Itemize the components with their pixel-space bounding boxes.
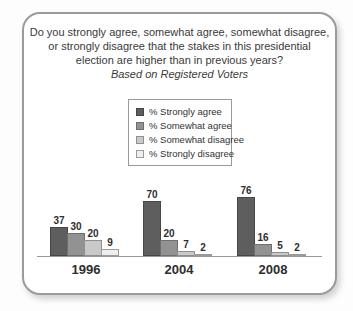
legend-label: % Somewhat disagree [149, 134, 244, 145]
bar-cell: 20 [84, 228, 102, 256]
legend-item-strongly-disagree: % Strongly disagree [136, 147, 231, 160]
bar-cell: 76 [237, 185, 255, 256]
legend-swatch-somewhat-agree [136, 122, 144, 130]
chart-title: Do you strongly agree, somewhat agree, s… [24, 25, 335, 81]
bar-value-label: 2 [200, 242, 206, 253]
bar-value-label: 7 [183, 239, 189, 250]
bar-value-label: 30 [70, 221, 81, 232]
bar-cell: 5 [271, 240, 289, 256]
bar-value-label: 20 [163, 228, 174, 239]
legend-item-somewhat-disagree: % Somewhat disagree [136, 133, 231, 146]
bar-cell: 37 [50, 215, 68, 256]
bar-value-label: 76 [240, 185, 251, 196]
bar-cell: 70 [143, 189, 161, 256]
legend-swatch-somewhat-disagree [136, 136, 144, 144]
bar-group-1996: 3730209 [50, 215, 119, 256]
bar [177, 251, 195, 256]
bar [271, 252, 289, 256]
x-axis-label: 2004 [143, 262, 215, 277]
bar-value-label: 70 [146, 189, 157, 200]
x-axis-label: 1996 [50, 262, 122, 277]
bar [254, 244, 272, 256]
bar [237, 197, 255, 256]
bar [101, 249, 119, 256]
bar-chart-plot: 3730209702072761652 [37, 179, 322, 257]
legend-swatch-strongly-disagree [136, 150, 144, 158]
bar-value-label: 20 [87, 228, 98, 239]
bar-value-label: 5 [277, 240, 283, 251]
bar-cell: 30 [67, 221, 85, 256]
bar-value-label: 2 [294, 242, 300, 253]
chart-legend: % Strongly agree % Somewhat agree % Some… [128, 99, 232, 166]
bar-cell: 16 [254, 232, 272, 256]
chart-title-line-3: election are higher than in previous yea… [24, 53, 335, 67]
legend-item-strongly-agree: % Strongly agree [136, 105, 231, 118]
legend-swatch-strongly-agree [136, 108, 144, 116]
bar-value-label: 9 [107, 237, 113, 248]
bar [160, 240, 178, 256]
bar-group-2004: 702072 [143, 189, 212, 256]
bar-value-label: 16 [257, 232, 268, 243]
bar [143, 201, 161, 256]
legend-label: % Strongly disagree [149, 148, 234, 159]
bar-cell: 7 [177, 239, 195, 256]
bar-cell: 9 [101, 237, 119, 256]
bar-group-2008: 761652 [237, 185, 306, 256]
x-axis-labels: 199620042008 [37, 262, 322, 280]
chart-subtitle: Based on Registered Voters [24, 67, 335, 81]
bar [50, 227, 68, 256]
bar [67, 233, 85, 256]
bar-cell: 2 [288, 242, 306, 256]
bar [288, 254, 306, 256]
chart-title-line-2: or strongly disagree that the stakes in … [24, 39, 335, 53]
bar-cell: 2 [194, 242, 212, 256]
bar-value-label: 37 [53, 215, 64, 226]
bar [84, 240, 102, 256]
chart-card: Do you strongly agree, somewhat agree, s… [22, 12, 337, 295]
x-axis-line [37, 256, 322, 257]
chart-title-line-1: Do you strongly agree, somewhat agree, s… [24, 25, 335, 39]
legend-label: % Somewhat agree [149, 120, 232, 131]
bar [194, 254, 212, 256]
bar-cell: 20 [160, 228, 178, 256]
legend-item-somewhat-agree: % Somewhat agree [136, 119, 231, 132]
legend-label: % Strongly agree [149, 106, 222, 117]
x-axis-label: 2008 [237, 262, 309, 277]
